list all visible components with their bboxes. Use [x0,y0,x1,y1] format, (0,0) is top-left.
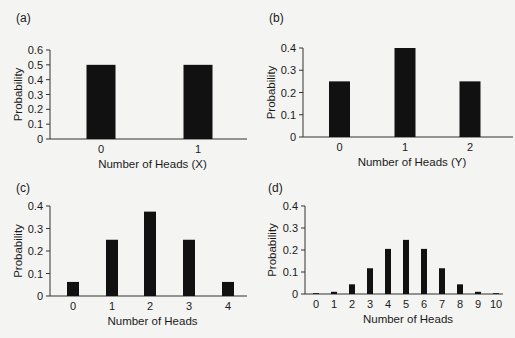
y-tick-label: 0 [37,133,43,145]
x-axis-label: Number of Heads (Y) [358,156,467,168]
x-tick-label: 0 [98,143,104,155]
y-tick-label: 0.2 [281,87,296,99]
y-axis-label: Probability [265,65,277,119]
bar-0 [329,81,350,137]
y-tick-label: 0.4 [283,200,298,212]
bar-0 [67,282,79,296]
x-tick-label: 2 [349,298,355,310]
x-axis-label: Number of Heads (X) [98,158,207,170]
panel-a: (a)00.10.20.30.40.50.6Probability01Numbe… [12,11,247,170]
y-tick-label: 0.1 [28,118,43,130]
x-tick-label: 3 [367,298,373,310]
bar-4 [222,282,234,296]
y-axis-label: Probability [12,224,24,278]
y-tick-label: 0 [290,131,296,143]
y-tick-label: 0.1 [28,268,43,280]
y-tick-label: 0.6 [28,44,43,56]
y-tick-label: 0.3 [28,89,43,101]
axes [50,50,247,139]
y-tick-label: 0.1 [281,109,296,121]
bar-9 [475,292,481,294]
x-axis-label: Number of Heads [363,313,453,325]
bar-5 [403,240,409,294]
x-tick-label: 0 [313,298,319,310]
panel-label: (b) [269,11,284,25]
figure: (a)00.10.20.30.40.50.6Probability01Numbe… [0,0,515,338]
bar-2 [460,81,481,137]
panel-label: (a) [16,11,31,25]
y-tick-label: 0.1 [283,266,298,278]
y-tick-label: 0.2 [283,244,298,256]
x-tick-label: 4 [225,300,231,312]
bar-3 [367,268,373,294]
y-tick-label: 0.3 [281,64,296,76]
bar-2 [144,212,156,296]
y-tick-label: 0.4 [28,74,43,86]
panel-label: (c) [16,181,30,195]
bar-3 [183,240,195,296]
y-tick-label: 0 [37,290,43,302]
x-tick-label: 1 [331,298,337,310]
bar-1 [106,240,118,296]
bar-4 [385,249,391,294]
bar-10 [493,293,499,294]
y-tick-label: 0.2 [28,245,43,257]
y-axis-label: Probability [266,223,278,277]
x-axis-label: Number of Heads [107,315,197,327]
y-tick-label: 0.5 [28,59,43,71]
x-tick-label: 3 [186,300,192,312]
bar-0 [313,293,319,294]
x-tick-label: 6 [421,298,427,310]
bar-8 [457,284,463,294]
x-tick-label: 8 [457,298,463,310]
x-tick-label: 7 [439,298,445,310]
bar-2 [349,284,355,294]
bar-0 [87,65,116,139]
x-tick-label: 10 [490,298,502,310]
bar-1 [331,292,337,294]
x-tick-label: 0 [336,141,342,153]
bar-1 [184,65,213,139]
y-tick-label: 0 [292,288,298,300]
x-tick-label: 1 [109,300,115,312]
y-axis-label: Probability [12,67,24,121]
bar-1 [395,48,416,137]
y-tick-label: 0.3 [283,222,298,234]
x-tick-label: 2 [147,300,153,312]
y-tick-label: 0.4 [28,200,43,212]
y-tick-label: 0.3 [28,223,43,235]
bar-6 [421,249,427,294]
x-tick-label: 9 [475,298,481,310]
y-tick-label: 0.2 [28,103,43,115]
panel-c: (c)00.10.20.30.4Probability01234Number o… [12,181,247,327]
x-tick-label: 4 [385,298,391,310]
x-tick-label: 0 [70,300,76,312]
x-tick-label: 1 [195,143,201,155]
bar-7 [439,268,445,294]
x-tick-label: 2 [467,141,473,153]
x-tick-label: 5 [403,298,409,310]
y-tick-label: 0.4 [281,42,296,54]
panel-label: (d) [268,181,283,195]
panel-d: (d)00.10.20.30.4Probability012345678910N… [266,181,503,325]
panel-b: (b)00.10.20.30.4Probability012Number of … [265,11,513,168]
x-tick-label: 1 [402,141,408,153]
